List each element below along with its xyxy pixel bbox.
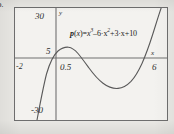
formula-term2: –6·x xyxy=(93,29,107,38)
plot-frame: 30 -30 5 -2 0.5 6 y x p(x)=x3–6·x2+3·x+1… xyxy=(14,7,168,121)
figure-page: b. 30 -30 5 -2 0.5 6 y x p(x)=x3–6·x2+3·… xyxy=(0,0,174,134)
y-axis-max-label: 30 xyxy=(35,11,44,21)
x-axis-min-label: -2 xyxy=(16,62,23,71)
x-axis-name-label: x xyxy=(151,49,154,57)
x-axis-max-label: 6 xyxy=(152,62,157,72)
x-axis-tick-label: 0.5 xyxy=(60,62,71,72)
y-axis-tick-label: 5 xyxy=(46,46,51,56)
formula-term3: +3·x xyxy=(110,29,125,38)
plot-canvas xyxy=(15,8,167,120)
exercise-item-label: b. xyxy=(0,0,3,9)
y-axis-min-label: -30 xyxy=(31,105,43,115)
function-formula-annotation: p(x)=x3–6·x2+3·x+10 xyxy=(70,27,137,38)
formula-term4: +10 xyxy=(125,29,137,38)
y-axis-name-label: y xyxy=(59,9,62,17)
